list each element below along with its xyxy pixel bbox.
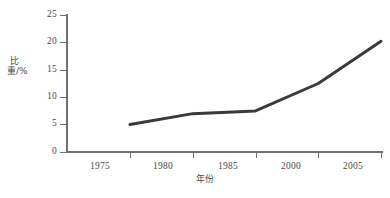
y-tick-label-5: 5	[17, 119, 57, 129]
line-chart: 比重/% 25 20 15 10 5 0 1975 1980 1985 2000…	[0, 0, 390, 198]
x-axis-title: 年份	[185, 174, 225, 184]
x-tick-label-2000: 2000	[268, 161, 314, 171]
x-tick-mark	[318, 152, 319, 158]
y-tick-mark	[60, 15, 67, 16]
y-tick-label-20: 20	[17, 37, 57, 47]
y-tick-label-25: 25	[17, 10, 57, 20]
x-tick-label-1975: 1975	[77, 161, 123, 171]
x-tick-mark	[193, 152, 194, 158]
y-tick-mark	[60, 124, 67, 125]
x-tick-mark	[381, 152, 382, 158]
y-tick-mark	[60, 42, 67, 43]
x-tick-label-2005: 2005	[330, 161, 376, 171]
y-tick-label-15: 15	[17, 65, 57, 75]
y-tick-label-0: 0	[17, 147, 57, 157]
y-axis-line	[66, 14, 68, 153]
y-tick-mark	[60, 97, 67, 98]
x-tick-label-1980: 1980	[140, 161, 186, 171]
x-axis-line	[66, 151, 383, 153]
x-tick-label-1985: 1985	[205, 161, 251, 171]
y-tick-mark	[60, 70, 67, 71]
y-tick-mark	[60, 152, 67, 153]
x-tick-mark	[256, 152, 257, 158]
data-series-line	[130, 41, 381, 124]
x-tick-mark	[130, 152, 131, 158]
y-tick-label-10: 10	[17, 92, 57, 102]
